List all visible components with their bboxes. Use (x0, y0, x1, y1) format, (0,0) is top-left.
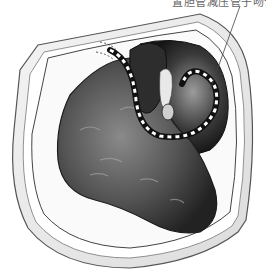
surgical-illustration (0, 0, 266, 276)
